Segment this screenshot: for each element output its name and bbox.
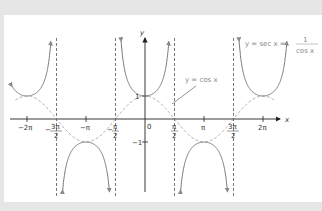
tick-label-3pi2: 3π	[228, 123, 237, 131]
svg-text:1: 1	[303, 36, 307, 44]
svg-text:2: 2	[231, 132, 235, 140]
cos-label-pointer	[172, 86, 196, 104]
sec-label: y = sec x =	[245, 40, 286, 48]
tick-label-neg3pi2: 3π	[51, 123, 60, 131]
tick-label-pi2: π	[172, 123, 177, 131]
tick-label-pi: π	[201, 124, 206, 132]
cos-label: y = cos x	[185, 76, 218, 84]
svg-text:2: 2	[54, 132, 58, 140]
axes	[10, 38, 280, 192]
sec-cos-graph: y x 0 1 −1 −2π 3π 2 − −π π 2 − π 2 π 3π …	[0, 0, 322, 211]
tick-label-negpi2: π	[113, 123, 118, 131]
origin-label: 0	[147, 123, 151, 131]
y-axis-label: y	[139, 29, 145, 37]
y-tick-1: 1	[135, 93, 139, 101]
x-axis-label: x	[284, 116, 290, 124]
svg-text:2: 2	[172, 132, 176, 140]
svg-text:−: −	[45, 126, 51, 134]
tick-label-negpi: −π	[80, 124, 91, 132]
svg-text:−: −	[107, 126, 113, 134]
svg-text:cos x: cos x	[296, 47, 314, 55]
sec-curve	[12, 41, 287, 192]
tick-label-2pi: 2π	[258, 124, 267, 132]
y-tick-neg1: −1	[132, 139, 142, 147]
tick-label-neg2pi: −2π	[18, 124, 33, 132]
svg-text:2: 2	[113, 132, 117, 140]
